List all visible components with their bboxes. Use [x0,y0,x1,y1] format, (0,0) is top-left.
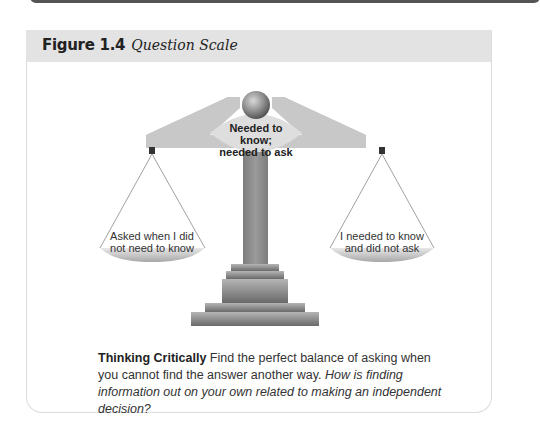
right-hook [379,147,385,154]
left-pan-label-line: Asked when I did [102,230,202,242]
scale-base [191,264,319,326]
scale-post [243,150,268,266]
right-pan-label-line: and did not ask [332,242,432,254]
scale-ball [242,91,270,119]
caption-lead: Thinking Critically [98,351,206,365]
left-pan-label-line: not need to know [102,242,202,254]
center-label: Needed to know; needed to ask [214,122,298,158]
center-label-line: Needed to know; [214,122,298,146]
right-pan-label-line: I needed to know [332,230,432,242]
figure-caption: Thinking Critically Find the perfect bal… [98,350,448,418]
left-pan-label: Asked when I did not need to know [102,230,202,254]
right-pan-label: I needed to know and did not ask [332,230,432,254]
center-label-line: needed to ask [214,146,298,158]
left-hook [149,147,155,154]
